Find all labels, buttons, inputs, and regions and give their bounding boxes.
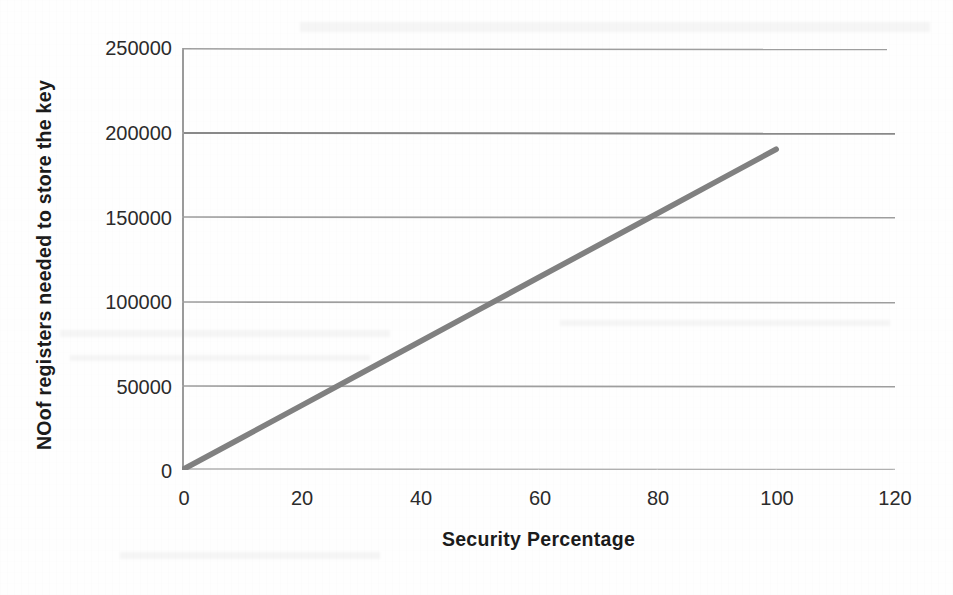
gridline-50000 xyxy=(182,386,895,387)
plot-svg xyxy=(182,48,895,470)
x-tick-label: 80 xyxy=(613,487,703,509)
x-axis-tick-labels: 0 20 40 60 80 100 120 xyxy=(0,487,953,517)
x-tick-label: 120 xyxy=(850,487,940,509)
x-tick-label: 20 xyxy=(257,487,347,509)
data-series-line xyxy=(182,149,776,470)
scan-smudge xyxy=(300,22,930,32)
x-tick-label: 40 xyxy=(376,487,466,509)
gridline-250000 xyxy=(182,49,887,50)
x-tick-label: 100 xyxy=(732,487,822,509)
gridline-200000 xyxy=(182,133,895,134)
y-tick-label: 50000 xyxy=(52,377,172,397)
gridline-100000 xyxy=(182,302,895,303)
plot-area xyxy=(182,48,895,470)
y-tick-label: 150000 xyxy=(52,208,172,228)
chart-figure: NOof registers needed to store the key 2… xyxy=(0,0,953,595)
gridlines xyxy=(182,49,895,387)
x-axis-title: Security Percentage xyxy=(182,528,895,551)
y-tick-label: 250000 xyxy=(52,38,172,58)
x-tick-label: 0 xyxy=(139,487,229,509)
gridline-150000 xyxy=(182,217,895,218)
x-tick-label: 60 xyxy=(495,487,585,509)
y-tick-label: 100000 xyxy=(52,292,172,312)
y-tick-label: 0 xyxy=(52,461,172,481)
y-tick-label: 200000 xyxy=(52,123,172,143)
